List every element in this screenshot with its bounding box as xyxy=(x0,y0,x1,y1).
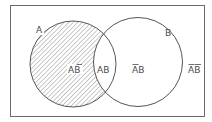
svg-text:AB: AB xyxy=(132,65,144,75)
region-not-a-b-label: AB xyxy=(132,65,144,76)
region-not-a-not-b-label: AB xyxy=(188,65,201,76)
region-a-and-b-label: AB xyxy=(97,65,109,75)
svg-text:AB: AB xyxy=(188,65,200,75)
venn-diagram: A B AB AB AB AB xyxy=(0,0,212,122)
set-b-label: B xyxy=(165,28,171,38)
region-a-not-b-label: AB xyxy=(67,64,83,75)
svg-text:AB: AB xyxy=(68,65,80,75)
set-a-label: A xyxy=(36,25,43,35)
svg-text:AB: AB xyxy=(97,65,109,75)
